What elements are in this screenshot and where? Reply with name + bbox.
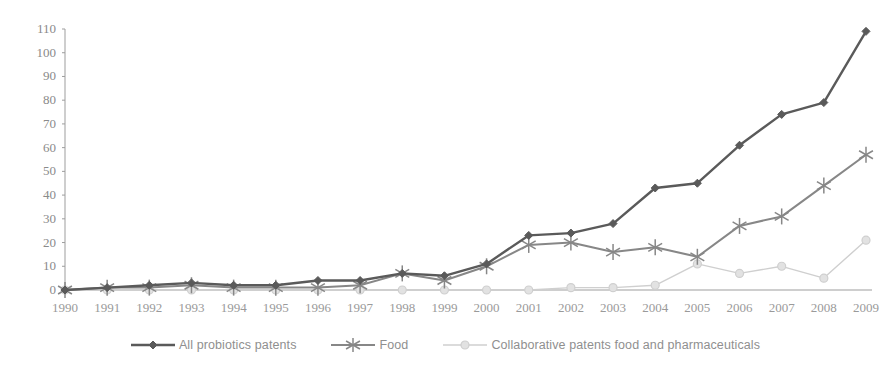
y-axis-tick-label: 60 bbox=[22, 141, 56, 154]
y-axis-tick-label: 80 bbox=[22, 93, 56, 106]
data-point-marker bbox=[525, 286, 533, 294]
legend-swatch-icon bbox=[442, 338, 488, 352]
x-axis-tick-label: 1997 bbox=[340, 301, 380, 315]
x-axis-tick-label: 1991 bbox=[87, 301, 127, 315]
data-point-marker bbox=[149, 341, 157, 349]
y-axis-tick-label: 70 bbox=[22, 117, 56, 130]
data-point-marker bbox=[733, 218, 747, 234]
chart-legend: All probiotics patentsFoodCollaborative … bbox=[0, 334, 890, 356]
x-axis-tick-label: 2005 bbox=[677, 301, 717, 315]
data-point-marker bbox=[483, 286, 491, 294]
data-point-marker bbox=[778, 262, 786, 270]
x-axis-tick-label: 1992 bbox=[129, 301, 169, 315]
data-point-marker bbox=[567, 284, 575, 292]
data-point-marker bbox=[862, 236, 870, 244]
x-axis-tick-label: 2006 bbox=[720, 301, 760, 315]
x-axis-tick-label: 1998 bbox=[382, 301, 422, 315]
chart-axes bbox=[62, 29, 872, 290]
data-point-marker bbox=[398, 286, 406, 294]
chart-series-layer bbox=[58, 27, 873, 298]
y-axis-tick-label: 110 bbox=[22, 22, 56, 35]
legend-label: Collaborative patents food and pharmaceu… bbox=[491, 338, 760, 352]
x-axis-tick-label: 2009 bbox=[846, 301, 886, 315]
data-point-marker bbox=[398, 269, 406, 277]
legend-label: All probiotics patents bbox=[179, 338, 297, 352]
data-point-marker bbox=[690, 249, 704, 265]
data-point-marker bbox=[859, 147, 873, 163]
y-axis-tick-label: 30 bbox=[22, 212, 56, 225]
x-axis-tick-label: 2002 bbox=[551, 301, 591, 315]
legend-item[interactable]: All probiotics patents bbox=[130, 338, 297, 352]
legend-item[interactable]: Food bbox=[330, 338, 408, 352]
x-axis-tick-label: 2004 bbox=[635, 301, 675, 315]
data-point-marker bbox=[651, 281, 659, 289]
data-point-marker bbox=[609, 284, 617, 292]
x-axis-tick-label: 1994 bbox=[214, 301, 254, 315]
x-axis-tick-label: 1990 bbox=[45, 301, 85, 315]
chart-series bbox=[61, 27, 870, 294]
data-point-marker bbox=[567, 229, 575, 237]
x-axis-tick-label: 2008 bbox=[804, 301, 844, 315]
data-point-marker bbox=[817, 178, 831, 194]
y-axis-tick-label: 90 bbox=[22, 69, 56, 82]
x-axis-tick-label: 1993 bbox=[171, 301, 211, 315]
chart-series bbox=[58, 147, 873, 298]
data-point-marker bbox=[736, 269, 744, 277]
data-point-marker bbox=[775, 208, 789, 224]
legend-swatch-icon bbox=[130, 338, 176, 352]
data-point-marker bbox=[314, 277, 322, 285]
x-axis-tick-label: 1995 bbox=[256, 301, 296, 315]
y-axis-tick-label: 10 bbox=[22, 259, 56, 272]
y-axis-tick-label: 20 bbox=[22, 236, 56, 249]
data-point-marker bbox=[461, 341, 469, 349]
y-axis-tick-label: 100 bbox=[22, 46, 56, 59]
x-axis-tick-label: 1996 bbox=[298, 301, 338, 315]
series-line bbox=[65, 31, 866, 290]
legend-swatch-icon bbox=[330, 338, 376, 352]
y-axis-tick-label: 50 bbox=[22, 164, 56, 177]
legend-item[interactable]: Collaborative patents food and pharmaceu… bbox=[442, 338, 760, 352]
x-axis-tick-label: 2000 bbox=[467, 301, 507, 315]
x-axis-tick-label: 2003 bbox=[593, 301, 633, 315]
x-axis-tick-label: 2007 bbox=[762, 301, 802, 315]
y-axis-tick-label: 0 bbox=[22, 283, 56, 296]
data-point-marker bbox=[820, 274, 828, 282]
legend-label: Food bbox=[379, 338, 408, 352]
y-axis-tick-label: 40 bbox=[22, 188, 56, 201]
x-axis-tick-label: 2001 bbox=[509, 301, 549, 315]
x-axis-tick-label: 1999 bbox=[424, 301, 464, 315]
probiotics-patents-line-chart: 0102030405060708090100110 19901991199219… bbox=[0, 0, 890, 370]
